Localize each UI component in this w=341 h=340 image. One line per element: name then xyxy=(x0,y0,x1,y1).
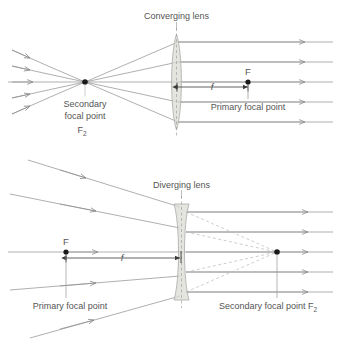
figure-background xyxy=(0,0,341,340)
secondary-focal-point-dot-bottom xyxy=(274,249,280,255)
primary-focal-point-dot-bottom xyxy=(63,249,68,254)
primary-focal-point-dot-top xyxy=(245,79,250,84)
secondary-focal-point-label-bottom: Secondary focal point F2 xyxy=(219,301,318,313)
primary-focal-point-label-bottom: Primary focal point xyxy=(33,301,108,311)
diverging-lens-label: Diverging lens xyxy=(153,180,211,190)
optics-figure: Converging lens f F Primary focal point … xyxy=(0,0,341,340)
lens-diagram-svg: Converging lens f F Primary focal point … xyxy=(0,0,341,340)
primary-focal-point-symbol-top: F xyxy=(245,66,251,77)
secondary-focal-point-dot-top xyxy=(82,79,88,85)
secondary-focal-point-label-line1: Secondary xyxy=(63,99,107,109)
converging-lens-label: Converging lens xyxy=(144,11,210,21)
secondary-focal-point-label-line2: focal point xyxy=(64,111,106,121)
converging-lens-body xyxy=(172,34,182,130)
primary-focal-point-symbol-bottom: F xyxy=(63,236,69,247)
primary-focal-point-label-top: Primary focal point xyxy=(211,102,286,112)
